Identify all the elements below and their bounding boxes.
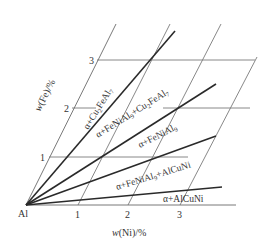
ni-tick-2: 2 bbox=[125, 209, 130, 220]
phase-diagram: Al 1 2 3 1 2 3 w(Ni)/% w(Fe)/% α+Cu2FeAl… bbox=[0, 0, 272, 245]
fe-tick-1: 1 bbox=[40, 152, 45, 163]
ni-tick-3: 3 bbox=[177, 209, 182, 220]
region-label-feni-al9-alcuni: α+FeNiAl9+AlCuNi bbox=[115, 160, 193, 193]
fe-tick-3: 3 bbox=[89, 55, 94, 66]
ni-tick-1: 1 bbox=[75, 209, 80, 220]
region-label-alcuni: α+AlCuNi bbox=[163, 194, 204, 204]
origin-label: Al bbox=[18, 208, 28, 219]
fe-axis-label: w(Fe)/% bbox=[32, 77, 58, 113]
grid-ni-3 bbox=[180, 57, 257, 205]
ni-axis-label: w(Ni)/% bbox=[112, 227, 146, 239]
region-label-feni-al9: α+FeNiAl9 bbox=[136, 122, 178, 151]
fe-tick-2: 2 bbox=[64, 103, 69, 114]
